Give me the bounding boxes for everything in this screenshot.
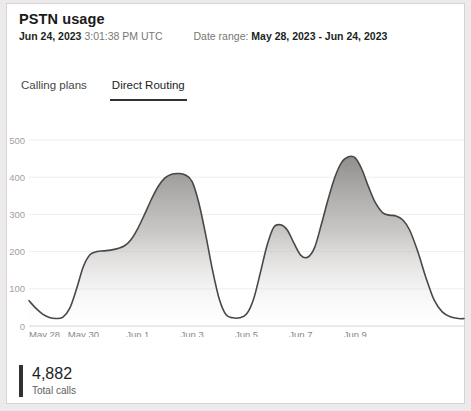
screenshot-root: PSTN usage Jun 24, 2023 3:01:38 PM UTC D… — [0, 0, 471, 411]
y-tick-label: 500 — [9, 135, 25, 146]
card-header: PSTN usage Jun 24, 2023 3:01:38 PM UTC D… — [19, 11, 454, 43]
chart-x-axis-labels: May 28May 30Jun 1Jun 3Jun 5Jun 7Jun 9 — [29, 329, 367, 337]
y-tick-label: 300 — [9, 209, 25, 220]
tab-list: Calling plans Direct Routing — [19, 76, 187, 101]
pstn-usage-chart: 0100200300400500 May 28May 30Jun 1Jun 3J… — [7, 122, 466, 337]
x-tick-label: Jun 5 — [235, 329, 258, 337]
date-range: Date range: May 28, 2023 - Jun 24, 2023 — [194, 30, 388, 43]
x-tick-label: Jun 9 — [344, 329, 367, 337]
generated-date: Jun 24, 2023 — [19, 30, 81, 42]
kpi-value: 4,882 — [32, 364, 76, 383]
x-tick-label: May 30 — [68, 329, 99, 337]
page-title: PSTN usage — [19, 11, 454, 28]
generated-time: 3:01:38 PM UTC — [84, 30, 162, 42]
y-tick-label: 100 — [9, 283, 25, 294]
date-range-value: May 28, 2023 - Jun 24, 2023 — [251, 30, 387, 42]
tab-direct-routing[interactable]: Direct Routing — [110, 76, 187, 101]
x-tick-label: Jun 7 — [289, 329, 312, 337]
y-tick-label: 0 — [20, 321, 25, 332]
y-tick-label: 400 — [9, 172, 25, 183]
x-tick-label: Jun 3 — [181, 329, 204, 337]
kpi-total-calls: 4,882 Total calls — [19, 364, 76, 397]
date-range-label: Date range: — [194, 30, 249, 42]
chart-area-fill — [29, 156, 464, 326]
area-chart-svg: 0100200300400500 May 28May 30Jun 1Jun 3J… — [7, 122, 466, 337]
chart-y-axis-labels: 0100200300400500 — [9, 135, 25, 332]
x-tick-label: Jun 1 — [126, 329, 149, 337]
x-tick-label: May 28 — [29, 329, 60, 337]
kpi-text-block: 4,882 Total calls — [32, 364, 76, 397]
header-meta: Jun 24, 2023 3:01:38 PM UTC Date range: … — [19, 30, 454, 43]
y-tick-label: 200 — [9, 246, 25, 257]
kpi-label: Total calls — [32, 384, 76, 397]
tab-calling-plans[interactable]: Calling plans — [19, 76, 89, 101]
kpi-accent-bar — [19, 365, 23, 397]
pstn-usage-card: PSTN usage Jun 24, 2023 3:01:38 PM UTC D… — [6, 3, 465, 404]
page-bottom-strip — [0, 405, 471, 411]
